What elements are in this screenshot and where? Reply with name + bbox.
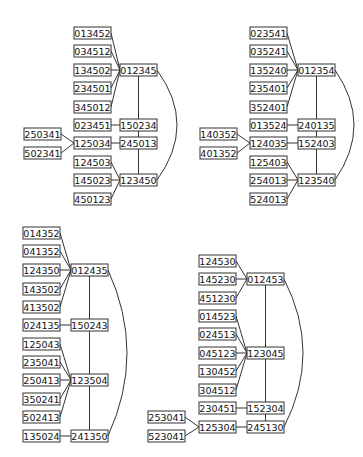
node-label: 014352: [23, 228, 59, 239]
edge-014523-123045: [236, 316, 247, 353]
node-label: 143502: [23, 284, 59, 295]
node-label: 123504: [71, 375, 107, 386]
node-label: 024513: [199, 329, 235, 340]
node-label: 013452: [74, 28, 110, 39]
node-024513: 024513: [199, 328, 236, 340]
node-143502: 143502: [23, 283, 60, 295]
node-235041: 235041: [23, 356, 60, 368]
node-152304: 152304: [247, 402, 284, 414]
node-150243: 150243: [71, 319, 108, 331]
node-135024: 135024: [23, 430, 60, 442]
edge-125403-123540: [287, 162, 298, 180]
node-label: 345012: [74, 102, 110, 113]
node-label: 241350: [71, 431, 107, 442]
node-label: 012435: [71, 265, 107, 276]
node-035241: 035241: [250, 45, 287, 57]
node-152403: 152403: [298, 137, 335, 149]
graph-4-nodes: 1245301452304512300124530145230245130451…: [148, 255, 284, 442]
node-label: 254013: [250, 175, 286, 186]
graph-2-nodes: 0235410352411352402354013524010123540135…: [200, 27, 335, 205]
edge-235041-123504: [60, 362, 71, 380]
node-label: 123450: [120, 175, 156, 186]
node-254013: 254013: [250, 174, 287, 186]
node-125034: 125034: [74, 137, 111, 149]
edge-253041-125304: [185, 417, 199, 427]
node-label: 413502: [23, 302, 59, 313]
edge-451230-012453: [236, 279, 247, 298]
node-label: 014523: [199, 311, 235, 322]
node-350241: 350241: [23, 393, 60, 405]
node-304512: 304512: [199, 384, 236, 396]
node-240135: 240135: [298, 119, 335, 131]
node-label: 125034: [74, 138, 110, 149]
node-023541: 023541: [250, 27, 287, 39]
edge-013452-012345: [111, 33, 120, 70]
node-label: 145023: [74, 175, 110, 186]
node-label: 013524: [250, 120, 286, 131]
node-140352: 140352: [200, 128, 237, 140]
node-123504: 123504: [71, 374, 108, 386]
node-250413: 250413: [23, 374, 60, 386]
edge-034512-012345: [111, 51, 120, 70]
node-041352: 041352: [23, 245, 60, 257]
edge-014352-012435: [60, 233, 71, 270]
node-401352: 401352: [200, 147, 237, 159]
node-label: 035241: [250, 46, 286, 57]
node-451230: 451230: [199, 292, 236, 304]
node-label: 045123: [199, 348, 235, 359]
node-label: 253041: [148, 412, 184, 423]
node-502341: 502341: [24, 147, 61, 159]
node-label: 250341: [24, 129, 60, 140]
graph-3-nodes: 0143520413521243501435024135020124350241…: [23, 227, 108, 442]
node-012453: 012453: [247, 273, 284, 285]
node-012435: 012435: [71, 264, 108, 276]
node-label: 451230: [199, 293, 235, 304]
node-524013: 524013: [250, 193, 287, 205]
node-label: 125403: [250, 157, 286, 168]
node-label: 230451: [199, 403, 235, 414]
node-label: 123045: [247, 348, 283, 359]
permutation-graph-diagram: 0134520345121345022345013450120123450234…: [0, 0, 363, 457]
edge-035241-012354: [287, 51, 298, 70]
node-label: 123540: [298, 175, 334, 186]
node-234501: 234501: [74, 82, 111, 94]
node-label: 450123: [74, 194, 110, 205]
node-label: 235401: [250, 83, 286, 94]
edge-124503-123450: [111, 162, 120, 180]
node-label: 502413: [23, 412, 59, 423]
node-label: 012345: [120, 65, 156, 76]
node-130452: 130452: [199, 365, 236, 377]
node-024135: 024135: [23, 319, 60, 331]
node-label: 135240: [250, 65, 286, 76]
node-label: 502341: [24, 148, 60, 159]
node-253041: 253041: [148, 411, 185, 423]
node-label: 012354: [298, 65, 334, 76]
node-label: 145230: [199, 274, 235, 285]
node-label: 150243: [71, 320, 107, 331]
node-label: 245130: [247, 422, 283, 433]
edge-041352-012435: [60, 251, 71, 270]
edge-023541-012354: [287, 33, 298, 70]
node-123450: 123450: [120, 174, 157, 186]
node-014523: 014523: [199, 310, 236, 322]
node-013452: 013452: [74, 27, 111, 39]
node-label: 023451: [74, 120, 110, 131]
node-124503: 124503: [74, 156, 111, 168]
node-label: 140352: [200, 129, 236, 140]
graph-3-edges: [60, 233, 127, 436]
node-502413: 502413: [23, 411, 60, 423]
arc-012345-123450: [157, 70, 177, 180]
node-label: 245013: [120, 138, 156, 149]
node-label: 124530: [199, 256, 235, 267]
node-134502: 134502: [74, 64, 111, 76]
node-label: 125304: [199, 422, 235, 433]
edge-143502-012435: [60, 270, 71, 289]
edge-401352-124035: [237, 143, 250, 153]
edge-413502-012435: [60, 270, 71, 307]
node-045123: 045123: [199, 347, 236, 359]
edge-345012-012345: [111, 70, 120, 107]
node-label: 124350: [23, 265, 59, 276]
edge-140352-124035: [237, 134, 250, 143]
node-241350: 241350: [71, 430, 108, 442]
node-label: 401352: [200, 148, 236, 159]
